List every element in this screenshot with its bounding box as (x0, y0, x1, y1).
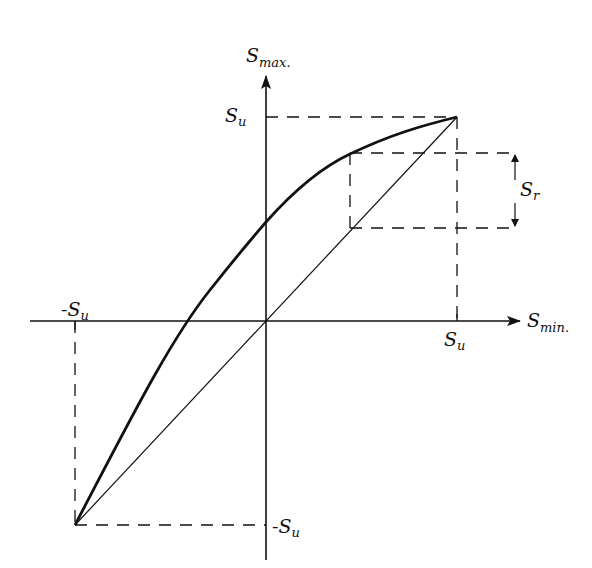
fatigue-diagram: Smax. Smin. Su Su -Su -Su Sr (0, 0, 592, 568)
label-sr: Sr (520, 178, 540, 203)
label-neg-su-vertical: -Su (272, 515, 300, 540)
label-smax: Smax. (246, 44, 291, 70)
label-neg-su-horizontal: -Su (61, 298, 89, 323)
label-su-horizontal: Su (444, 328, 465, 353)
label-su-vertical: Su (225, 104, 246, 129)
label-smin: Smin. (527, 309, 569, 335)
